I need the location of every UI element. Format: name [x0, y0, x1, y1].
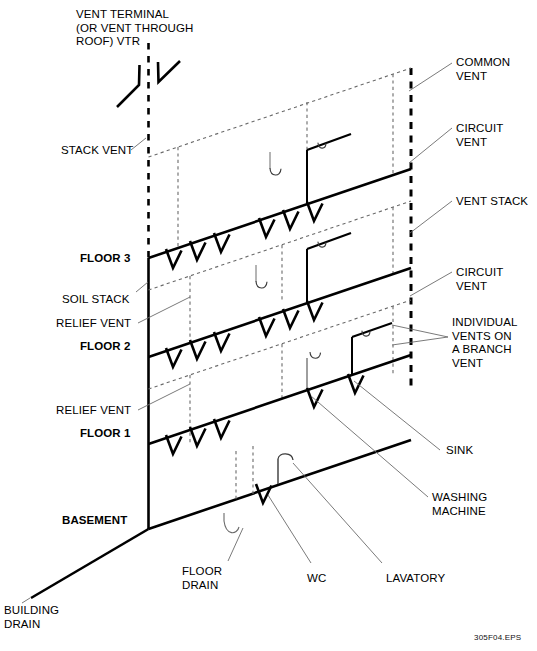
label-floor-drain: FLOOR DRAIN [182, 565, 222, 592]
circuit-vent-loop-lower [149, 300, 412, 444]
label-individual-vents: INDIVIDUAL VENTS ON A BRANCH VENT [452, 316, 518, 370]
vent-terminal-symbol-right [158, 61, 180, 82]
figure-canvas: VENT TERMINAL (OR VENT THROUGH ROOF) VTR… [0, 0, 537, 651]
floor-3-branch-assembly [149, 134, 412, 268]
vent-terminal-symbol-left [117, 65, 140, 107]
figure-id: 305F04.EPS [474, 631, 521, 645]
circuit-vent-loop-upper [149, 201, 412, 346]
common-vent-loop [149, 68, 412, 247]
label-floor-2: FLOOR 2 [80, 340, 131, 354]
basement-branch-assembly [149, 440, 412, 533]
label-circuit-vent-mid: CIRCUIT VENT [456, 266, 503, 293]
label-vent-terminal: VENT TERMINAL (OR VENT THROUGH ROOF) VTR [76, 8, 193, 49]
label-basement: BASEMENT [62, 514, 127, 528]
label-lavatory: LAVATORY [386, 572, 445, 586]
building-drain-line [31, 529, 149, 598]
label-circuit-vent-top: CIRCUIT VENT [456, 122, 503, 149]
label-soil-stack: SOIL STACK [62, 293, 129, 307]
label-relief-vent-upper: RELIEF VENT [56, 317, 131, 331]
label-floor-3: FLOOR 3 [80, 252, 131, 266]
label-sink: SINK [446, 444, 473, 458]
label-floor-1: FLOOR 1 [80, 427, 131, 441]
label-building-drain: BUILDING DRAIN [4, 604, 59, 631]
label-stack-vent: STACK VENT [61, 144, 133, 158]
floor-2-branch-assembly [149, 233, 412, 367]
label-washing-machine: WASHING MACHINE [432, 491, 487, 518]
label-common-vent: COMMON VENT [456, 56, 510, 83]
label-relief-vent-lower: RELIEF VENT [56, 404, 131, 418]
label-wc: WC [307, 572, 326, 586]
label-vent-stack: VENT STACK [456, 195, 528, 209]
